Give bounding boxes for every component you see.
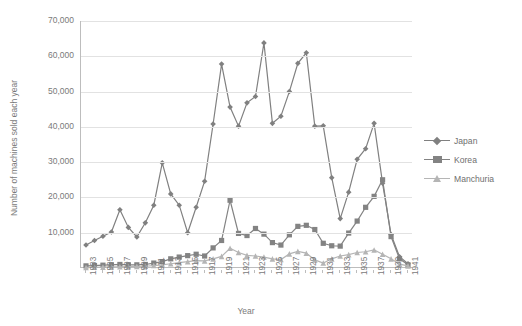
gridline	[81, 197, 412, 198]
data-point-marker	[219, 61, 225, 67]
x-axis-tick-label: 1941	[411, 257, 420, 275]
x-axis-tick-mark	[187, 270, 188, 273]
legend-marker-icon	[424, 136, 450, 146]
legend-item-japan[interactable]: Japan	[424, 131, 520, 150]
data-point-marker	[202, 178, 208, 184]
data-point-marker	[151, 202, 157, 208]
series-line	[86, 43, 408, 264]
data-point-marker	[219, 238, 224, 243]
data-point-marker	[253, 226, 258, 231]
data-point-marker	[261, 40, 267, 46]
legend-marker-shape	[433, 136, 441, 144]
x-axis-tick-label: 1919	[225, 257, 234, 275]
y-axis-tick-labels: 70,00060,00050,00040,00030,00020,00010,0…	[22, 0, 74, 326]
legend-marker-shape	[433, 175, 441, 182]
x-axis-tick-mark	[119, 270, 120, 273]
data-point-marker	[270, 240, 275, 245]
x-axis-tick-mark	[170, 270, 171, 273]
x-axis-tick-mark	[407, 270, 408, 273]
x-axis-tick-mark	[356, 270, 357, 273]
data-point-marker	[83, 242, 89, 248]
x-axis-tick-mark	[339, 270, 340, 273]
x-axis-tick-mark	[390, 270, 391, 273]
gridline	[81, 233, 412, 234]
x-axis-tick-mark	[204, 270, 205, 273]
x-axis-tick-mark	[271, 270, 272, 273]
gridline	[81, 162, 412, 163]
chart-container: Number of machines sold each year 70,000…	[0, 0, 522, 326]
legend-marker-icon	[424, 155, 450, 165]
x-axis-tick-label: 1927	[292, 257, 301, 275]
data-point-marker	[143, 220, 149, 226]
x-axis-tick-label: 1913	[174, 257, 183, 275]
x-axis-tick-mark	[221, 270, 222, 273]
data-point-marker	[227, 245, 233, 251]
x-axis-tick-label: 1923	[258, 257, 267, 275]
data-point-marker	[363, 205, 368, 210]
x-axis-tick-mark	[136, 270, 137, 273]
y-axis-tick-label: 40,000	[22, 122, 74, 131]
x-axis-tick-label: 1937	[377, 257, 386, 275]
data-point-marker	[278, 242, 283, 247]
legend-label: Japan	[454, 136, 477, 146]
y-axis-tick-label: 50,000	[22, 87, 74, 96]
data-point-marker	[227, 104, 233, 110]
x-axis-tick-mark	[322, 270, 323, 273]
gridline	[81, 56, 412, 57]
series-svg	[81, 21, 413, 268]
y-axis-tick-label: 30,000	[22, 157, 74, 166]
x-axis-tick-mark	[85, 270, 86, 273]
chart-legend: JapanKoreaManchuria	[424, 131, 520, 188]
y-axis-title-wrapper: Number of machines sold each year	[6, 24, 22, 272]
x-axis-tick-label: 1917	[208, 257, 217, 275]
data-point-marker	[388, 256, 394, 262]
data-point-marker	[346, 189, 352, 195]
data-point-marker	[329, 243, 334, 248]
data-point-marker	[371, 121, 377, 127]
x-axis-tick-mark	[254, 270, 255, 273]
gridline	[81, 21, 412, 22]
x-axis-tick-label: 1921	[242, 257, 251, 275]
data-point-marker	[236, 250, 242, 256]
x-axis-tick-mark	[373, 270, 374, 273]
data-point-marker	[193, 205, 199, 211]
x-axis-tick-mark	[153, 270, 154, 273]
x-axis-tick-label: 1903	[89, 257, 98, 275]
gridline	[81, 92, 412, 93]
legend-marker-icon	[424, 174, 450, 184]
data-point-marker	[388, 234, 393, 239]
plot-area	[80, 21, 412, 268]
data-point-marker	[380, 177, 385, 182]
legend-marker-shape	[433, 156, 442, 163]
y-axis-tick-label: 20,000	[22, 192, 74, 201]
x-axis-tick-mark	[305, 270, 306, 273]
x-axis-tick-label: 1925	[275, 257, 284, 275]
x-axis-tick-label: 1911	[157, 257, 166, 275]
x-axis-tick-label: 1915	[191, 257, 200, 275]
x-axis-tick-label: 1907	[123, 257, 132, 275]
legend-item-manchuria[interactable]: Manchuria	[424, 169, 520, 188]
x-axis-tick-label: 1905	[106, 257, 115, 275]
x-axis-tick-mark	[102, 270, 103, 273]
data-point-marker	[92, 238, 98, 244]
x-axis-tick-labels: 1903190519071909191119131915191719191921…	[80, 270, 412, 306]
y-axis-tick-label: 60,000	[22, 51, 74, 60]
data-point-marker	[168, 256, 173, 261]
data-point-marker	[338, 244, 343, 249]
data-point-marker	[185, 253, 190, 258]
data-point-marker	[312, 227, 317, 232]
legend-label: Manchuria	[454, 174, 494, 184]
data-point-marker	[337, 216, 343, 222]
legend-item-korea[interactable]: Korea	[424, 150, 520, 169]
data-point-marker	[355, 218, 360, 223]
legend-label: Korea	[454, 155, 477, 165]
data-point-marker	[329, 175, 335, 181]
data-point-marker	[100, 233, 106, 239]
x-axis-tick-mark	[288, 270, 289, 273]
x-axis-title: Year	[80, 306, 412, 316]
data-point-marker	[211, 245, 216, 250]
y-axis-tick-label: 10,000	[22, 228, 74, 237]
data-point-marker	[295, 224, 300, 229]
x-axis-tick-label: 1931	[326, 257, 335, 275]
y-axis-title: Number of machines sold each year	[9, 80, 19, 216]
